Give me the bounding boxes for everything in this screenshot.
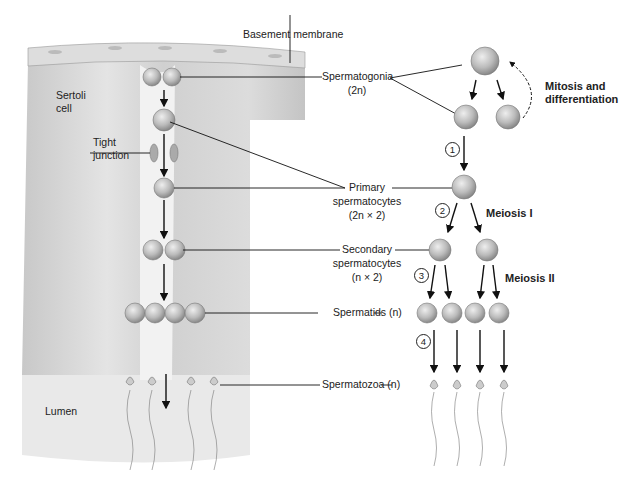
label-spermatogonia: Spermatogonia (322, 70, 392, 83)
diagram-graphics (0, 0, 640, 479)
label-sertoli-cell: cell (56, 102, 72, 115)
label-spermatids: Spermatids (n) (333, 306, 402, 319)
label-mitosis: Mitosis and (545, 80, 606, 93)
label-secondary-spermatocytes: spermatocytes (330, 257, 404, 270)
step-2-badge: 2 (435, 203, 450, 218)
label-tight-junction: junction (93, 149, 129, 162)
label-sertoli: Sertoli (56, 89, 86, 102)
label-tight: Tight (93, 136, 116, 149)
label-differentiation: differentiation (545, 93, 618, 106)
step-3-badge: 3 (414, 268, 429, 283)
label-primary-spermatocytes: spermatocytes (330, 195, 404, 208)
label-basement-membrane: Basement membrane (243, 28, 343, 41)
step-1-badge: 1 (445, 142, 460, 157)
step-4-badge: 4 (416, 334, 431, 349)
label-meiosis-i: Meiosis I (486, 207, 532, 220)
label-secondary-ploidy: (n × 2) (330, 271, 404, 284)
label-secondary: Secondary (330, 243, 404, 256)
label-primary-ploidy: (2n × 2) (330, 209, 404, 222)
label-lumen: Lumen (45, 405, 77, 418)
label-spermatozoa: Spermatozoa (n) (322, 378, 400, 391)
spermatogenesis-diagram: Basement membrane Sertoli cell Tight jun… (0, 0, 640, 479)
label-spermatogonia-ploidy: (2n) (322, 84, 392, 97)
label-meiosis-ii: Meiosis II (505, 272, 555, 285)
label-primary: Primary (330, 181, 404, 194)
